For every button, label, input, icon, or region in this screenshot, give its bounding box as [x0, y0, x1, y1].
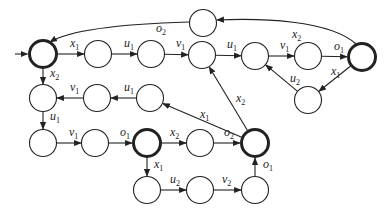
state-node-s17 [134, 177, 161, 204]
edge-label: v1 [176, 36, 185, 52]
edge-label: x1 [69, 36, 79, 52]
edge-label: x1 [153, 157, 163, 173]
edge-label: u1 [124, 80, 134, 96]
state-node-s3 [189, 42, 216, 69]
state-node-s7 [190, 10, 217, 37]
state-node-s15 [187, 130, 214, 157]
edge-label: x2 [291, 27, 301, 43]
edge-label: x2 [49, 66, 59, 82]
edge-label: v1 [69, 125, 78, 141]
edge-label: u2 [290, 71, 300, 87]
state-node-s19 [242, 177, 269, 204]
edge-label: u1 [227, 37, 237, 53]
edge-label: x2 [235, 91, 245, 107]
state-node-s2 [138, 41, 165, 68]
edge-label: u1 [50, 109, 60, 125]
state-node-s0 [30, 41, 57, 68]
edge-label: o1 [263, 157, 273, 173]
edge-label: u2 [170, 172, 180, 188]
state-node-s6 [349, 44, 376, 71]
state-node-s13 [82, 130, 109, 157]
edge-label: x1 [199, 107, 209, 123]
edge-label: v1 [280, 38, 289, 54]
edge-label: x2 [169, 125, 179, 141]
state-node-s12 [30, 130, 57, 157]
edge-label: u1 [124, 36, 134, 52]
state-node-s11 [137, 85, 164, 112]
state-node-s1 [85, 41, 112, 68]
state-node-s18 [187, 177, 214, 204]
state-node-s8 [295, 87, 322, 114]
state-node-s14 [134, 130, 161, 157]
edge-label: v2 [222, 172, 231, 188]
state-node-s16 [242, 130, 269, 157]
edge-label: o2 [224, 125, 234, 141]
state-node-s9 [30, 85, 57, 112]
edge-label: x1 [330, 64, 340, 80]
edge-label: o1 [120, 125, 130, 141]
state-node-s10 [84, 85, 111, 112]
state-diagram: x1u1v1u1v1o1x2o2x1u2x2u1v1u1v1o1x2o2x1u2… [0, 0, 392, 212]
state-node-s4 [242, 43, 269, 70]
edge-label: v1 [70, 80, 79, 96]
edge-label: o1 [334, 39, 344, 55]
state-node-s5 [295, 43, 322, 70]
